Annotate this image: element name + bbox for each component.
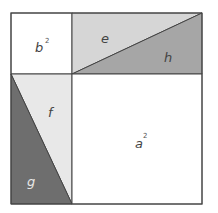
- pythagorean-diagram: b 2 e h f g a 2: [0, 0, 218, 213]
- label-b-exponent: 2: [45, 37, 49, 45]
- label-h: h: [164, 50, 172, 65]
- label-g: g: [27, 174, 35, 189]
- label-b: b: [35, 40, 43, 55]
- label-a-exponent: 2: [143, 132, 147, 140]
- label-a: a: [135, 136, 143, 151]
- label-e: e: [101, 31, 109, 46]
